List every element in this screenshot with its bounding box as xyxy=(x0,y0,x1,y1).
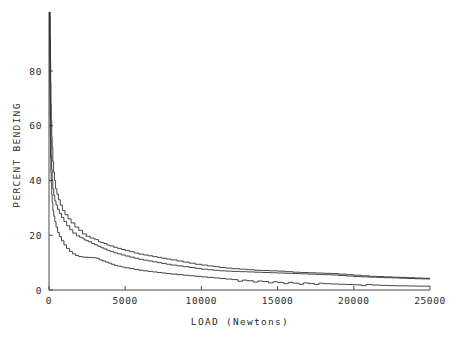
axis-ticks-group xyxy=(49,71,430,290)
y-tick-label: 40 xyxy=(29,175,42,186)
axes-group xyxy=(49,12,430,290)
y-axis-title: PERCENT BENDING xyxy=(11,102,22,207)
x-tick-label: 25000 xyxy=(414,295,446,306)
y-tick-label: 0 xyxy=(36,285,42,296)
data-curve xyxy=(50,12,430,279)
plot-svg: 0500010000150002000025000020406080 LOAD … xyxy=(0,0,462,340)
axis-tick-labels-group: 0500010000150002000025000020406080 xyxy=(29,66,445,307)
y-tick-label: 80 xyxy=(29,66,42,77)
x-tick-label: 5000 xyxy=(113,295,138,306)
x-axis-title: LOAD (Newtons) xyxy=(191,316,289,327)
x-tick-label: 10000 xyxy=(186,295,218,306)
chart-figure: 0500010000150002000025000020406080 LOAD … xyxy=(0,0,462,340)
y-tick-label: 20 xyxy=(29,230,42,241)
data-curve xyxy=(50,12,430,279)
y-tick-label: 60 xyxy=(29,120,42,131)
x-tick-label: 20000 xyxy=(338,295,370,306)
x-tick-label: 0 xyxy=(46,295,52,306)
data-curves-group xyxy=(49,12,430,286)
x-tick-label: 15000 xyxy=(262,295,294,306)
